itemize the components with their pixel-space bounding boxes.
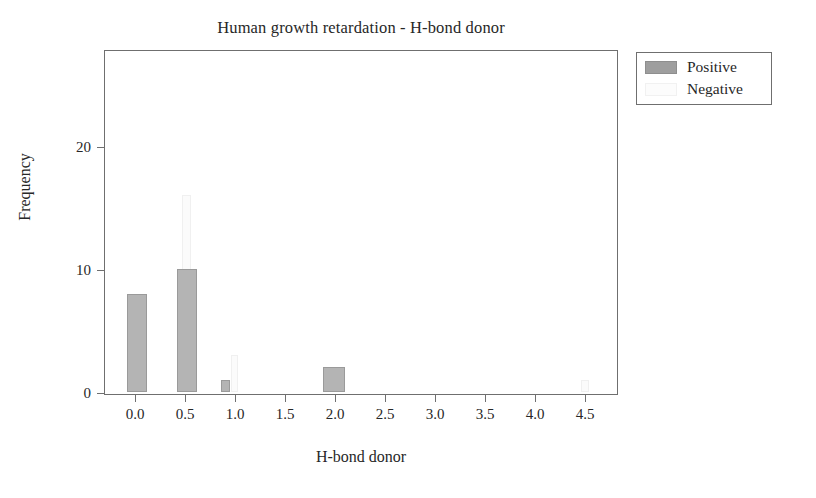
x-tick-3.0	[435, 395, 436, 402]
y-tick-label-20: 20	[45, 140, 91, 155]
x-tick-0.0	[135, 395, 136, 402]
x-tick-1.5	[285, 395, 286, 402]
legend-label-positive: Positive	[687, 56, 737, 78]
x-tick-label-0.0: 0.0	[112, 406, 158, 423]
y-tick-label-10: 10	[45, 263, 91, 278]
legend-label-negative: Negative	[687, 78, 743, 100]
bar-positive-x0	[127, 294, 147, 392]
x-tick-label-1.0: 1.0	[212, 406, 258, 423]
y-tick-20	[97, 147, 104, 148]
x-tick-2.0	[335, 395, 336, 402]
chart-title: Human growth retardation - H-bond donor	[104, 18, 618, 38]
x-tick-label-2.5: 2.5	[362, 406, 408, 423]
chart-legend: Positive Negative	[636, 52, 772, 105]
x-tick-label-1.5: 1.5	[262, 406, 308, 423]
x-tick-0.5	[185, 395, 186, 402]
x-tick-label-4.0: 4.0	[512, 406, 558, 423]
bar-negative-x4.5	[581, 380, 589, 392]
legend-entry-negative[interactable]: Negative	[645, 78, 767, 100]
bar-positive-x0.5	[177, 269, 197, 392]
plot-area	[105, 51, 617, 394]
y-tick-10	[97, 270, 104, 271]
y-tick-0	[97, 393, 104, 394]
x-tick-1.0	[235, 395, 236, 402]
plot-frame	[104, 50, 618, 395]
bar-negative-x1.05	[231, 355, 238, 392]
legend-entry-positive[interactable]: Positive	[645, 56, 767, 78]
x-axis-label: H-bond donor	[104, 448, 618, 466]
legend-swatch-negative	[645, 83, 677, 96]
x-tick-label-3.5: 3.5	[462, 406, 508, 423]
legend-swatch-positive	[645, 61, 677, 74]
y-axis-label: Frequency	[16, 87, 34, 287]
x-tick-3.5	[485, 395, 486, 402]
x-tick-4.0	[535, 395, 536, 402]
x-tick-4.5	[585, 395, 586, 402]
x-tick-label-3.0: 3.0	[412, 406, 458, 423]
x-tick-label-0.5: 0.5	[162, 406, 208, 423]
x-tick-2.5	[385, 395, 386, 402]
x-tick-label-2.0: 2.0	[312, 406, 358, 423]
x-tick-label-4.5: 4.5	[562, 406, 608, 423]
bar-positive-x1	[221, 380, 230, 392]
y-tick-label-0: 0	[45, 386, 91, 401]
chart-figure: Human growth retardation - H-bond donor …	[0, 0, 816, 498]
bar-positive-x2	[323, 367, 345, 392]
